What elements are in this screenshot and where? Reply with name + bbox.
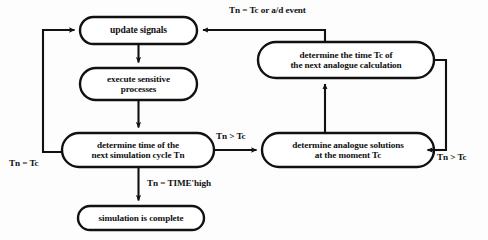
label-tn-eq-time-high: Tn = TIME'high (147, 178, 211, 188)
node-determine-time-tc (258, 42, 434, 78)
label-tn-eq-tc-or-ad-event: Tn = Tc or a/d event (229, 5, 306, 15)
label-tn-gt-tc-middle: Tn > Tc (216, 131, 246, 141)
flowchart-edges-layer (0, 0, 488, 240)
node-update-signals (80, 17, 197, 44)
flowchart-canvas: update signalsexecute sensitive processe… (0, 0, 488, 240)
node-execute-sensitive-processes (80, 68, 197, 100)
label-tn-gt-tc-right: Tn > Tc (437, 152, 467, 162)
flowchart-nodes-layer (62, 17, 434, 230)
edge-time-tc-to-update (203, 30, 325, 42)
label-tn-eq-tc-left: Tn = Tc (9, 158, 39, 168)
node-simulation-is-complete (78, 206, 204, 230)
node-determine-analogue-solutions (262, 133, 434, 167)
edge-cycle-to-update-feedback (43, 30, 75, 152)
edge-time-tc-to-analogue-feedback (434, 60, 446, 150)
node-determine-next-simulation-cycle (62, 133, 214, 167)
